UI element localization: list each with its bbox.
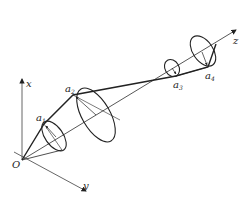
joint-label-a4: a4 [205,70,215,82]
radius-arrow [46,126,56,137]
rotation-ellipse-a4 [185,31,221,70]
kinematic-diagram: x y z O a1 a2 a3 a4 [0,0,250,206]
joint-label-a1: a1 [36,112,46,124]
origin-label: O [12,159,20,170]
z-axis [22,30,236,160]
axis-label-x: x [26,78,32,89]
axis-label-z: z [232,35,239,46]
cone-line [73,95,120,120]
cone-line [176,67,208,76]
joint-label-a2: a2 [65,83,75,95]
radius-arrow [172,68,176,74]
radius-arrow [202,52,207,65]
axis-label-y: y [82,180,89,191]
joint-label-a3: a3 [173,79,183,91]
